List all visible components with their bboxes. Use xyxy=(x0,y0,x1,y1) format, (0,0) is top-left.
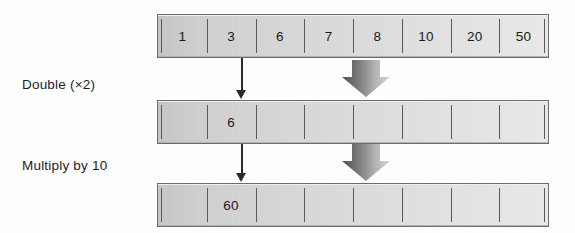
arrow-stem xyxy=(241,144,243,175)
array-cell: 8 xyxy=(353,15,402,57)
array-row-original: 1 3 6 7 8 10 20 50 xyxy=(157,14,549,58)
array-cell xyxy=(451,184,500,226)
diagram-canvas: Double (×2) Multiply by 10 1 3 6 7 8 10 … xyxy=(0,0,575,233)
array-cell: 20 xyxy=(451,15,500,57)
array-cell: 50 xyxy=(499,15,548,57)
block-down-arrow-icon xyxy=(341,144,391,182)
step-label-double: Double (×2) xyxy=(22,77,95,92)
array-cell xyxy=(499,184,548,226)
array-cell xyxy=(158,101,207,143)
array-cell xyxy=(304,101,353,143)
arrow-head xyxy=(236,90,246,99)
array-cell xyxy=(158,184,207,226)
array-cell xyxy=(451,101,500,143)
arrow-head xyxy=(236,173,246,182)
array-row-multiplied: 60 xyxy=(157,183,549,227)
array-cell: 10 xyxy=(402,15,451,57)
array-cell: 1 xyxy=(158,15,207,57)
array-cell: 6 xyxy=(207,101,256,143)
block-down-arrow-icon xyxy=(341,60,391,98)
step-label-multiply: Multiply by 10 xyxy=(22,158,107,173)
arrow-stem xyxy=(241,58,243,92)
array-cell: 60 xyxy=(207,184,256,226)
down-arrow-icon xyxy=(235,144,248,183)
array-cell xyxy=(402,101,451,143)
array-cell xyxy=(256,184,305,226)
array-cell xyxy=(402,184,451,226)
array-cell: 7 xyxy=(304,15,353,57)
array-row-doubled: 6 xyxy=(157,100,549,144)
array-cell: 6 xyxy=(256,15,305,57)
array-cell xyxy=(304,184,353,226)
array-cell xyxy=(256,101,305,143)
array-cell: 3 xyxy=(207,15,256,57)
down-arrow-icon xyxy=(235,58,248,100)
array-cell xyxy=(353,101,402,143)
array-cell xyxy=(353,184,402,226)
array-cell xyxy=(499,101,548,143)
